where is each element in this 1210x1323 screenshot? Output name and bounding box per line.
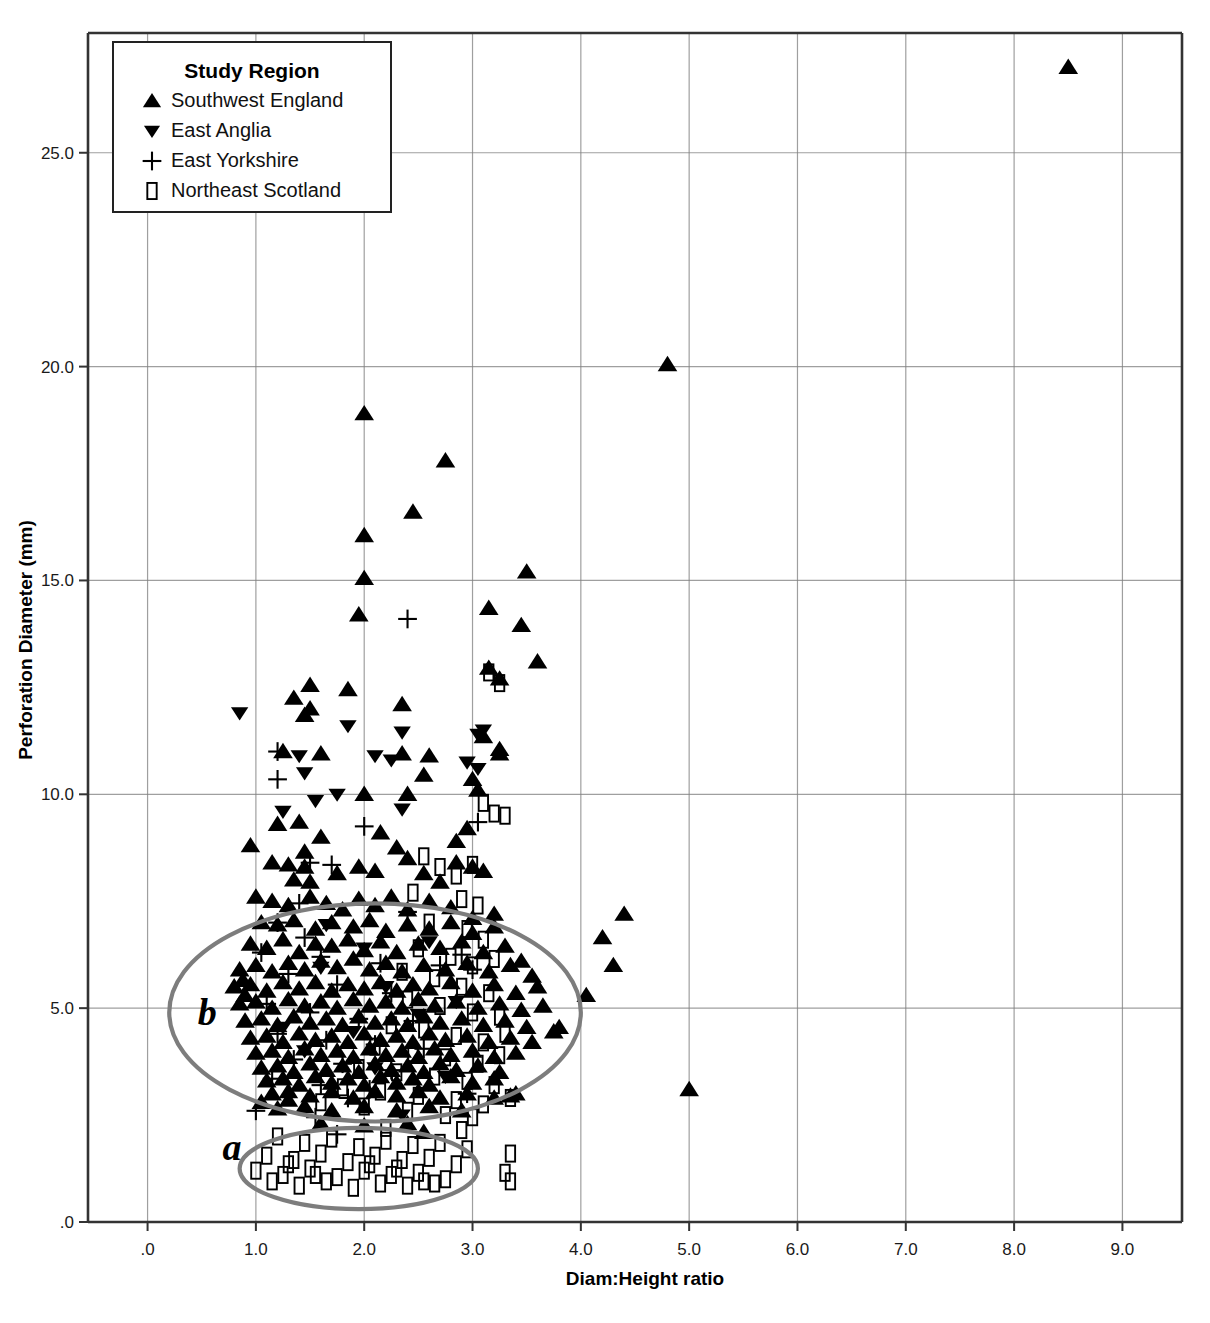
cluster-annotations: ba xyxy=(198,991,242,1168)
y-tick-label: 25.0 xyxy=(41,144,74,163)
data-point xyxy=(360,997,380,1012)
data-point xyxy=(295,961,315,976)
data-point xyxy=(500,808,509,824)
data-point xyxy=(479,659,499,674)
data-point xyxy=(365,1014,385,1029)
data-point xyxy=(322,937,342,952)
data-point xyxy=(339,720,356,733)
legend-label: Northeast Scotland xyxy=(171,179,341,201)
data-point xyxy=(425,1150,434,1166)
data-point xyxy=(452,868,461,884)
data-point xyxy=(349,858,369,873)
data-point xyxy=(414,865,434,880)
data-point xyxy=(387,839,407,854)
data-point xyxy=(295,1178,304,1194)
data-point xyxy=(479,600,499,615)
data-point xyxy=(408,1137,417,1153)
data-point xyxy=(338,681,358,696)
data-point xyxy=(300,677,320,692)
data-point xyxy=(349,606,369,621)
data-point xyxy=(262,893,282,908)
data-point xyxy=(393,727,410,740)
x-tick-label: 7.0 xyxy=(894,1240,918,1259)
data-point xyxy=(241,837,261,852)
data-point xyxy=(511,617,531,632)
data-point xyxy=(279,1049,299,1064)
data-point xyxy=(490,805,499,821)
data-point xyxy=(354,786,374,801)
data-point xyxy=(614,905,634,920)
data-point xyxy=(273,1034,293,1049)
data-point xyxy=(436,452,456,467)
data-point xyxy=(327,999,347,1014)
x-tick-label: 4.0 xyxy=(569,1240,593,1259)
data-point xyxy=(262,1148,271,1164)
data-point xyxy=(311,828,331,843)
legend-label: East Anglia xyxy=(171,119,272,141)
data-point xyxy=(381,888,401,903)
data-point xyxy=(398,1017,418,1032)
data-point xyxy=(446,949,455,965)
data-point xyxy=(246,957,266,972)
data-point xyxy=(430,1014,450,1029)
x-tick-label: 5.0 xyxy=(677,1240,701,1259)
data-point xyxy=(295,843,315,858)
data-point xyxy=(604,957,624,972)
plot-svg: .01.02.03.04.05.06.07.08.09.0.05.010.015… xyxy=(0,0,1210,1323)
data-point xyxy=(246,888,266,903)
data-point xyxy=(479,795,488,811)
data-point xyxy=(343,1154,352,1170)
data-point xyxy=(230,961,250,976)
data-point xyxy=(295,858,315,873)
data-point xyxy=(392,963,412,978)
x-tick-label: 3.0 xyxy=(461,1240,485,1259)
x-tick-label: 2.0 xyxy=(352,1240,376,1259)
data-point xyxy=(511,1002,531,1017)
data-point xyxy=(289,980,309,995)
data-point xyxy=(435,859,444,875)
data-point xyxy=(355,817,374,836)
data-point xyxy=(262,999,282,1014)
data-point xyxy=(376,1175,385,1191)
data-point xyxy=(365,863,385,878)
data-point xyxy=(296,767,313,780)
y-tick-label: 5.0 xyxy=(50,999,74,1018)
data-point xyxy=(316,1146,325,1162)
y-tick-label: .0 xyxy=(60,1213,74,1232)
legend-title: Study Region xyxy=(184,59,319,82)
data-point xyxy=(533,997,553,1012)
data-point xyxy=(262,854,282,869)
data-point xyxy=(354,980,374,995)
data-point xyxy=(452,1156,461,1172)
data-point xyxy=(300,1135,309,1151)
data-point xyxy=(473,897,482,913)
data-point xyxy=(679,1081,699,1096)
axis-ticks xyxy=(79,153,1122,1231)
data-point xyxy=(354,405,374,420)
data-point xyxy=(398,786,418,801)
data-point xyxy=(457,1122,466,1138)
y-tick-label: 20.0 xyxy=(41,358,74,377)
data-point xyxy=(268,816,288,831)
data-point xyxy=(414,766,434,781)
data-point xyxy=(457,891,466,907)
x-tick-label: .0 xyxy=(140,1240,154,1259)
data-point xyxy=(517,1019,537,1034)
data-points-layer xyxy=(224,59,1078,1196)
data-point xyxy=(267,1173,276,1189)
y-tick-label: 10.0 xyxy=(41,785,74,804)
data-point xyxy=(273,931,293,946)
data-point xyxy=(289,813,309,828)
data-point xyxy=(354,570,374,585)
data-point xyxy=(430,1175,439,1191)
x-axis-title: Diam:Height ratio xyxy=(566,1268,724,1289)
data-point xyxy=(291,750,308,763)
data-point xyxy=(506,1044,526,1059)
x-tick-label: 1.0 xyxy=(244,1240,268,1259)
data-point xyxy=(517,563,537,578)
data-point xyxy=(231,707,248,720)
data-point xyxy=(1058,59,1078,74)
data-point xyxy=(360,912,380,927)
data-point xyxy=(322,1173,331,1189)
data-point xyxy=(311,1047,331,1062)
